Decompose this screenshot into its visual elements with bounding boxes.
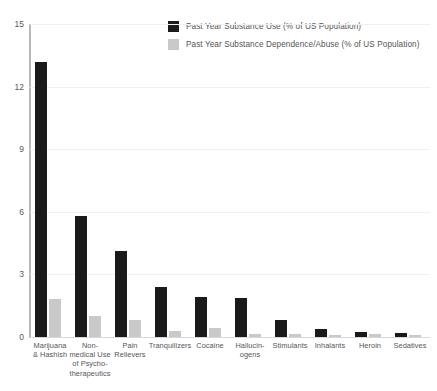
bar-group (235, 24, 261, 337)
bar-substance-use (315, 329, 327, 337)
bar-substance-use (235, 298, 247, 337)
x-axis-label-line: of Psycho- (64, 359, 116, 368)
bar-group (355, 24, 381, 337)
x-axis-label-line: Sedatives (384, 341, 436, 350)
bar-substance-use (35, 62, 47, 337)
bar-substance-use (75, 216, 87, 337)
bar-group (395, 24, 421, 337)
bar-group (35, 24, 61, 337)
y-tick-0: 0 (2, 332, 24, 342)
bar-dependence-abuse (209, 328, 221, 337)
x-axis-label-line: Relievers (104, 350, 156, 359)
x-axis-label-line: therapeutics (64, 369, 116, 378)
bar-group (275, 24, 301, 337)
y-tick-15: 15 (2, 19, 24, 29)
bar-substance-use (115, 251, 127, 337)
bar-group (115, 24, 141, 337)
bar-substance-use (195, 297, 207, 337)
plot-area (30, 24, 430, 337)
bar-substance-use (155, 287, 167, 337)
bar-group (315, 24, 341, 337)
y-tick-3: 3 (2, 269, 24, 279)
bar-dependence-abuse (49, 299, 61, 337)
bar-group (75, 24, 101, 337)
y-tick-6: 6 (2, 207, 24, 217)
x-axis-label-line: ogens (224, 350, 276, 359)
y-axis-tick-labels: 15 12 9 6 3 0 (0, 0, 24, 391)
x-axis-baseline (30, 337, 430, 338)
y-tick-12: 12 (2, 82, 24, 92)
bar-group (155, 24, 181, 337)
bar-group (195, 24, 221, 337)
x-axis-label: Sedatives (384, 341, 436, 350)
bar-dependence-abuse (89, 316, 101, 337)
bar-chart: Past Year Substance Use (% of US Populat… (0, 0, 437, 391)
bar-dependence-abuse (129, 320, 141, 337)
y-tick-9: 9 (2, 144, 24, 154)
bar-substance-use (275, 320, 287, 337)
